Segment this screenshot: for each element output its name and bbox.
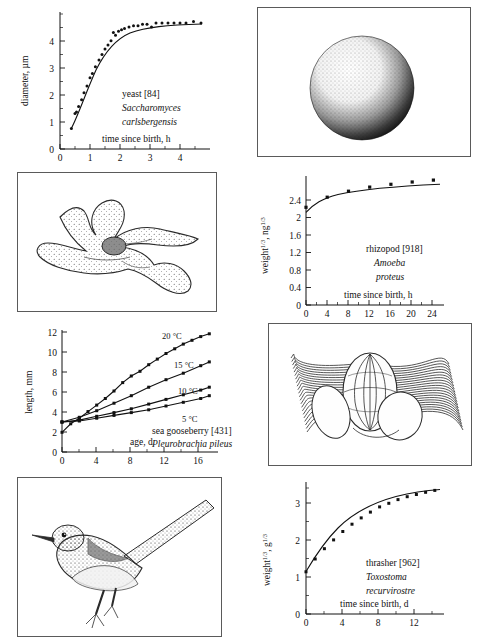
thrasher-beak <box>32 535 54 542</box>
chart-thrasher: 0 1 2 3 0 4 8 12 weight1/3, g1/3 <box>248 474 476 639</box>
illustration-amoeba <box>17 172 217 312</box>
thrasher-ytick-3: 3 <box>295 499 300 509</box>
yeast-xtick-0: 0 <box>58 153 63 163</box>
rhizopod-xtick-0: 0 <box>304 309 309 319</box>
thrasher-x-ticks: 0 4 8 12 <box>304 609 432 628</box>
gooseberry-caption-species: Pleurobrachia pileus <box>151 439 232 449</box>
gooseberry-label-20c: 20 °C <box>162 331 182 341</box>
yeast-xtick-2: 2 <box>118 153 123 163</box>
gooseberry-y-axis-label: length, mm <box>24 370 34 414</box>
gooseberry-ytick-5: 10 <box>48 348 58 358</box>
thrasher-bird <box>32 500 214 628</box>
gooseberry-caption-common: sea gooseberry [431] <box>152 426 232 436</box>
rhizopod-caption-genus: Amoeba <box>373 258 405 268</box>
yeast-y-ticks: 0 1 2 3 4 <box>49 14 65 155</box>
yeast-cell-stipple <box>310 36 414 140</box>
chart-rhizopod: 0 0.4 0.8 1.2 1.6 2 2.4 0 4 8 12 16 <box>248 170 476 320</box>
yeast-ytick-4: 4 <box>49 37 54 47</box>
gooseberry-ytick-6: 12 <box>48 328 58 338</box>
yeast-ytick-3: 3 <box>49 64 54 74</box>
thrasher-xtick-1: 4 <box>340 618 345 628</box>
rhizopod-ytick-5: 2 <box>296 213 301 223</box>
rhizopod-ytick-0: 0 <box>296 301 301 311</box>
gooseberry-xtick-0: 0 <box>60 456 65 466</box>
yeast-caption-species: carlsbergensis <box>122 117 177 127</box>
gooseberry-ytick-3: 6 <box>52 388 57 398</box>
rhizopod-ytick-1: 0.4 <box>289 283 301 293</box>
chart-yeast: 0 1 2 3 4 0 1 2 3 4 <box>12 6 227 166</box>
gooseberry-xtick-2: 8 <box>128 456 133 466</box>
gooseberry-ytick-0: 0 <box>52 448 57 458</box>
thrasher-ytick-1: 1 <box>295 573 300 583</box>
rhizopod-xtick-5: 20 <box>406 309 416 319</box>
rhizopod-ytick-4: 1.6 <box>289 231 301 241</box>
gooseberry-xtick-1: 4 <box>94 456 99 466</box>
thrasher-xtick-2: 8 <box>376 618 381 628</box>
illustration-ctenophore <box>268 323 472 466</box>
gooseberry-label-5c: 5 °C <box>182 414 198 424</box>
thrasher-legs <box>86 588 118 628</box>
rhizopod-data-points <box>304 179 435 209</box>
rhizopod-caption-species: proteus <box>375 272 404 282</box>
svg-text:weight1/3, g1/3: weight1/3, g1/3 <box>261 534 273 586</box>
thrasher-eye <box>62 533 67 538</box>
rhizopod-xtick-6: 24 <box>427 309 437 319</box>
yeast-x-ticks: 0 1 2 3 4 <box>58 144 195 163</box>
rhizopod-x-axis-label: time since birth, h <box>344 290 413 300</box>
thrasher-xtick-3: 12 <box>409 618 419 628</box>
yeast-xtick-3: 3 <box>148 153 153 163</box>
yeast-caption-common: yeast [84] <box>122 89 160 99</box>
gooseberry-x-axis-label: age, d <box>130 437 153 447</box>
illustration-thrasher <box>17 477 222 637</box>
thrasher-y-axis-label: weight1/3, g1/3 <box>261 534 273 586</box>
thrasher-caption-species: recurvirostre <box>366 586 415 596</box>
thrasher-tail <box>124 500 214 564</box>
gooseberry-ytick-2: 4 <box>52 408 57 418</box>
rhizopod-x-ticks: 0 4 8 12 16 20 24 <box>304 300 437 319</box>
yeast-y-axis-label: diameter, µm <box>20 55 30 106</box>
gooseberry-xtick-4: 16 <box>193 456 203 466</box>
yeast-ytick-1: 1 <box>49 118 54 128</box>
gooseberry-x-ticks: 0 4 8 12 16 <box>60 447 203 466</box>
thrasher-caption-genus: Toxostoma <box>366 572 407 582</box>
thrasher-ytick-2: 2 <box>295 536 300 546</box>
rhizopod-caption-common: rhizopod [918] <box>366 244 423 254</box>
thrasher-y-ticks: 0 1 2 3 <box>295 488 311 620</box>
rhizopod-y-ticks: 0 0.4 0.8 1.2 1.6 2 2.4 <box>289 196 311 311</box>
rhizopod-xtick-2: 8 <box>346 309 351 319</box>
rhizopod-ytick-6: 2.4 <box>289 196 301 206</box>
figure-page: 0 1 2 3 4 0 1 2 3 4 <box>0 0 479 643</box>
gooseberry-xtick-3: 12 <box>159 456 169 466</box>
yeast-axes <box>60 12 210 149</box>
rhizopod-xtick-1: 4 <box>325 309 330 319</box>
rhizopod-xtick-3: 12 <box>364 309 374 319</box>
rhizopod-ytick-2: 0.8 <box>289 266 301 276</box>
rhizopod-axes <box>306 176 444 305</box>
thrasher-xtick-0: 0 <box>304 618 309 628</box>
illustration-yeast-cell <box>257 7 471 157</box>
svg-text:weight1/3, ng1/3: weight1/3, ng1/3 <box>259 217 271 274</box>
yeast-xtick-4: 4 <box>178 153 183 163</box>
gooseberry-label-10c: 10 °C <box>178 386 198 396</box>
yeast-x-axis-label: time since birth, h <box>102 134 171 144</box>
thrasher-head <box>52 525 84 551</box>
rhizopod-y-axis-label: weight1/3, ng1/3 <box>259 217 271 274</box>
thrasher-x-axis-label: time since birth, d <box>340 599 409 609</box>
gooseberry-y-ticks: 0 2 4 6 8 10 12 <box>48 328 68 458</box>
yeast-data-points <box>70 20 203 130</box>
thrasher-caption-common: thrasher [962] <box>366 558 420 568</box>
chart-sea-gooseberry: 0 2 4 6 8 10 12 0 4 8 12 16 20 °C <box>12 322 240 474</box>
yeast-ytick-0: 0 <box>49 145 54 155</box>
amoeba-body <box>37 200 198 293</box>
yeast-ytick-2: 2 <box>49 91 54 101</box>
thrasher-ytick-0: 0 <box>295 610 300 620</box>
rhizopod-xtick-4: 16 <box>385 309 395 319</box>
rhizopod-ytick-3: 1.2 <box>289 248 301 258</box>
gooseberry-ytick-4: 8 <box>52 368 57 378</box>
gooseberry-label-15c: 15 °C <box>174 360 194 370</box>
yeast-xtick-1: 1 <box>88 153 93 163</box>
gooseberry-ytick-1: 2 <box>52 428 57 438</box>
yeast-caption-genus: Saccharomyces <box>122 103 181 113</box>
